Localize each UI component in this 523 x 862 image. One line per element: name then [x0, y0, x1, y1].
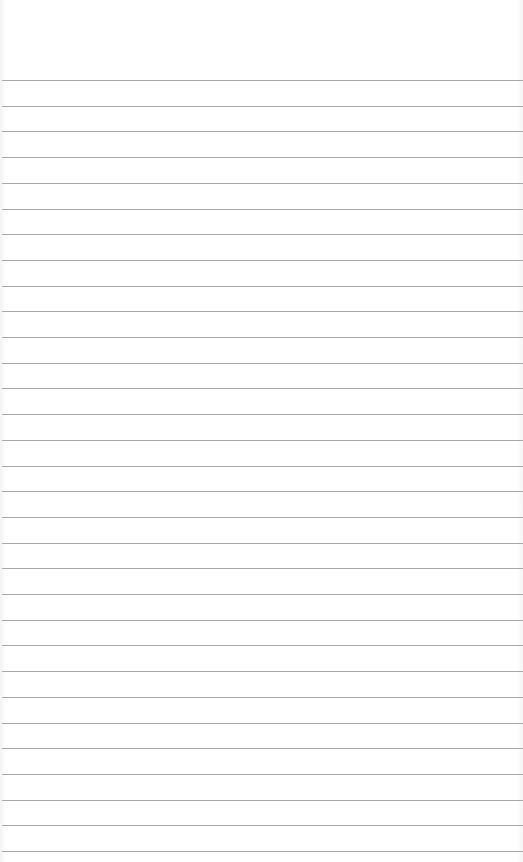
ruled-line	[2, 671, 523, 672]
ruled-line	[2, 697, 523, 698]
ruled-line	[2, 440, 523, 441]
ruled-line	[2, 825, 523, 826]
ruled-line	[2, 234, 523, 235]
ruled-line	[2, 286, 523, 287]
ruled-line	[2, 209, 523, 210]
ruled-line	[2, 414, 523, 415]
ruled-line	[2, 183, 523, 184]
ruled-line	[2, 157, 523, 158]
ruled-line	[2, 106, 523, 107]
ruled-line	[2, 517, 523, 518]
ruled-line	[2, 491, 523, 492]
ruled-line	[2, 594, 523, 595]
ruled-line	[2, 260, 523, 261]
ruled-line	[2, 800, 523, 801]
ruled-line	[2, 620, 523, 621]
ruled-line	[2, 311, 523, 312]
ruled-line	[2, 131, 523, 132]
ruled-line	[2, 723, 523, 724]
ruled-line	[2, 363, 523, 364]
ruled-line	[2, 466, 523, 467]
ruled-line	[2, 568, 523, 569]
ruled-line	[2, 851, 523, 852]
ruled-line	[2, 543, 523, 544]
ruled-paper	[0, 0, 523, 862]
ruled-line	[2, 645, 523, 646]
ruled-line	[2, 337, 523, 338]
ruled-line	[2, 388, 523, 389]
ruled-line	[2, 748, 523, 749]
ruled-line	[2, 80, 523, 81]
ruled-line	[2, 774, 523, 775]
